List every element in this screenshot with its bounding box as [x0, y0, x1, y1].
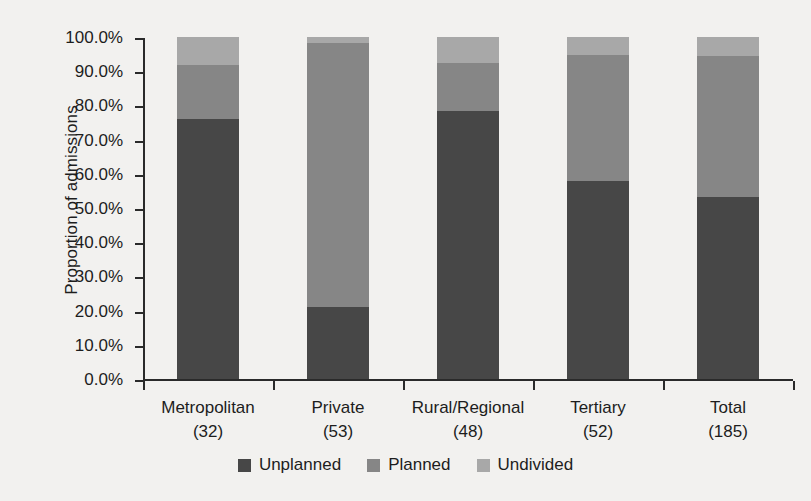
y-axis-tick: 20.0%	[135, 312, 143, 314]
legend-label: Undivided	[498, 455, 574, 475]
x-axis-tick	[793, 381, 795, 390]
bar-tertiary[interactable]	[567, 37, 629, 379]
bar-segment-unplanned	[177, 119, 239, 379]
legend-label: Planned	[388, 455, 450, 475]
y-axis-tick: 30.0%	[135, 277, 143, 279]
bar-segment-unplanned	[437, 111, 499, 379]
y-axis-tick: 0.0%	[135, 380, 143, 382]
category-count: (185)	[633, 420, 811, 444]
legend-item-undivided[interactable]: Undivided	[477, 455, 574, 475]
y-axis-tick-label: 30.0%	[75, 267, 123, 287]
bar-segment-undivided	[177, 37, 239, 65]
category-name: Private	[312, 398, 365, 417]
y-axis-tick-label: 0.0%	[84, 370, 123, 390]
legend-item-planned[interactable]: Planned	[367, 455, 450, 475]
legend-swatch-icon	[477, 459, 490, 472]
category-name: Metropolitan	[161, 398, 255, 417]
y-axis-tick-label: 80.0%	[75, 96, 123, 116]
y-axis-tick: 50.0%	[135, 209, 143, 211]
x-axis-tick	[533, 381, 535, 390]
x-axis-tick	[273, 381, 275, 390]
category-name: Tertiary	[570, 398, 626, 417]
bar-segment-undivided	[697, 37, 759, 56]
bar-segment-undivided	[567, 37, 629, 55]
plot-area: 100.0%90.0%80.0%70.0%60.0%50.0%40.0%30.0…	[143, 38, 793, 380]
legend-swatch-icon	[238, 459, 251, 472]
y-axis-tick: 100.0%	[135, 38, 143, 40]
bar-total[interactable]	[697, 37, 759, 379]
bar-private[interactable]	[307, 37, 369, 379]
x-axis-tick	[403, 381, 405, 390]
x-axis-tick	[663, 381, 665, 390]
y-axis-tick-label: 60.0%	[75, 165, 123, 185]
y-axis-tick: 60.0%	[135, 175, 143, 177]
y-axis-tick: 40.0%	[135, 243, 143, 245]
legend-item-unplanned[interactable]: Unplanned	[238, 455, 341, 475]
y-axis-tick-label: 10.0%	[75, 336, 123, 356]
y-axis-tick-label: 70.0%	[75, 131, 123, 151]
y-axis-tick: 10.0%	[135, 346, 143, 348]
bar-segment-unplanned	[697, 197, 759, 379]
bar-rural-regional[interactable]	[437, 37, 499, 379]
bar-segment-unplanned	[567, 181, 629, 379]
y-axis-tick-label: 100.0%	[65, 28, 123, 48]
y-axis-tick-label: 90.0%	[75, 62, 123, 82]
bar-segment-planned	[177, 65, 239, 119]
x-axis-tick	[143, 381, 145, 390]
bar-segment-planned	[307, 43, 369, 307]
x-axis-category-label: Total(185)	[633, 396, 811, 444]
legend-label: Unplanned	[259, 455, 341, 475]
legend-swatch-icon	[367, 459, 380, 472]
x-axis-line	[143, 379, 793, 381]
bar-segment-undivided	[437, 37, 499, 63]
bar-segment-planned	[437, 63, 499, 111]
y-axis-tick-label: 50.0%	[75, 199, 123, 219]
y-axis-tick: 80.0%	[135, 106, 143, 108]
y-axis-tick-label: 40.0%	[75, 233, 123, 253]
y-axis-tick: 70.0%	[135, 141, 143, 143]
chart-legend: UnplannedPlannedUndivided	[0, 455, 811, 475]
y-axis-tick-label: 20.0%	[75, 302, 123, 322]
bar-segment-planned	[697, 56, 759, 197]
y-axis-line	[143, 38, 145, 381]
bar-segment-planned	[567, 55, 629, 181]
stacked-bar-chart: Proportion of admissions 100.0%90.0%80.0…	[0, 0, 811, 501]
category-name: Total	[710, 398, 746, 417]
bar-segment-unplanned	[307, 307, 369, 379]
bar-metropolitan[interactable]	[177, 37, 239, 379]
y-axis-tick: 90.0%	[135, 72, 143, 74]
